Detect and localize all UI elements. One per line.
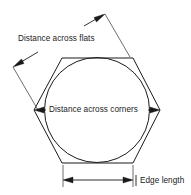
label-edge-length: Edge length xyxy=(140,176,184,186)
hex-head-diagram: Distance across flats Distance across co… xyxy=(0,0,191,195)
across-flats-extension-left xyxy=(13,67,38,110)
label-distance-across-flats: Distance across flats xyxy=(18,34,95,44)
across-flats-dimension xyxy=(13,14,130,110)
across-flats-arrow-lower-left xyxy=(13,59,24,67)
edge-length-dimension xyxy=(63,165,136,187)
diagram-canvas xyxy=(0,0,191,195)
edge-length-arrow-left xyxy=(63,177,73,183)
across-flats-arrow-upper-right xyxy=(94,14,105,22)
label-distance-across-corners: Distance across corners xyxy=(48,105,139,115)
edge-length-arrow-right xyxy=(123,177,133,183)
across-flats-extension-right xyxy=(105,14,130,57)
